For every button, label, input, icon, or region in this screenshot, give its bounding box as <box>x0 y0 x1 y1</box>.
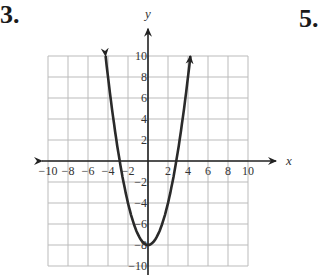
svg-text:10: 10 <box>135 49 147 63</box>
svg-text:8: 8 <box>225 164 231 178</box>
svg-text:−10: −10 <box>39 164 58 178</box>
svg-text:y: y <box>143 6 151 21</box>
axes: xy <box>42 6 292 275</box>
svg-text:−8: −8 <box>62 164 75 178</box>
svg-text:2: 2 <box>165 164 171 178</box>
svg-text:6: 6 <box>205 164 211 178</box>
svg-text:10: 10 <box>242 164 254 178</box>
svg-text:6: 6 <box>141 91 147 105</box>
svg-text:2: 2 <box>141 133 147 147</box>
svg-text:−10: −10 <box>128 259 147 273</box>
svg-text:4: 4 <box>185 164 191 178</box>
svg-text:x: x <box>285 153 292 168</box>
svg-text:4: 4 <box>141 112 147 126</box>
svg-text:−2: −2 <box>134 175 147 189</box>
svg-text:−4: −4 <box>102 164 115 178</box>
svg-text:8: 8 <box>141 70 147 84</box>
parabola-graph: xy −10−8−6−4−2246810108642−2−4−6−8−10 <box>0 0 329 275</box>
svg-text:−4: −4 <box>134 196 147 210</box>
svg-text:−6: −6 <box>82 164 95 178</box>
